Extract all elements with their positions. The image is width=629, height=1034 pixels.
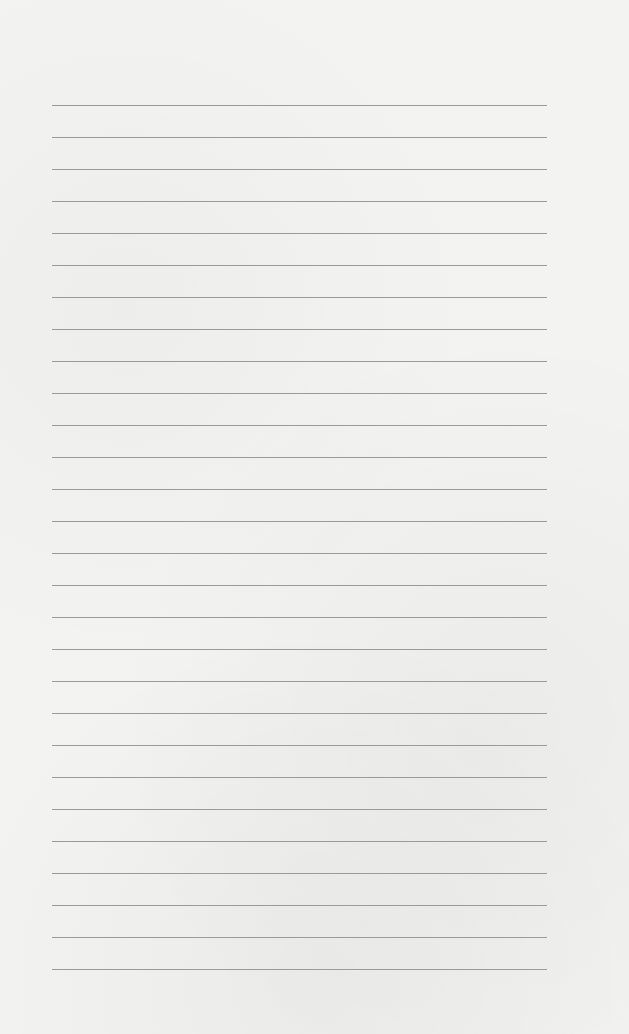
ruled-line — [52, 457, 547, 458]
ruled-line — [52, 521, 547, 522]
ruled-line — [52, 297, 547, 298]
ruled-line — [52, 745, 547, 746]
lined-paper-sheet — [0, 0, 629, 1034]
ruled-line — [52, 841, 547, 842]
ruled-line — [52, 873, 547, 874]
ruled-line — [52, 393, 547, 394]
ruled-line — [52, 649, 547, 650]
ruled-line — [52, 969, 547, 970]
ruled-line — [52, 265, 547, 266]
ruled-line — [52, 905, 547, 906]
ruled-line — [52, 809, 547, 810]
ruled-line — [52, 425, 547, 426]
ruled-line — [52, 361, 547, 362]
ruled-line — [52, 777, 547, 778]
ruled-line — [52, 329, 547, 330]
ruled-line — [52, 681, 547, 682]
ruled-line — [52, 201, 547, 202]
ruled-line — [52, 553, 547, 554]
ruled-line — [52, 617, 547, 618]
ruled-line — [52, 489, 547, 490]
ruled-line — [52, 585, 547, 586]
ruled-line — [52, 169, 547, 170]
ruled-line — [52, 713, 547, 714]
ruled-line — [52, 105, 547, 106]
ruled-line — [52, 937, 547, 938]
ruled-line — [52, 137, 547, 138]
ruled-line — [52, 233, 547, 234]
